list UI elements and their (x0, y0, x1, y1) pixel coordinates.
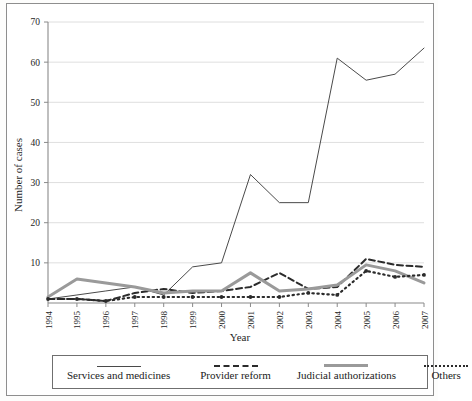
chart-canvas: 10203040506070 1994199519961997199819992… (0, 0, 438, 345)
series-lines (46, 48, 426, 303)
legend-swatch-dashed-icon (214, 365, 258, 367)
svg-text:2000: 2000 (217, 311, 227, 330)
series-marker (335, 293, 339, 297)
legend-label: Others (431, 369, 460, 382)
svg-text:10: 10 (31, 258, 41, 268)
series-marker (104, 299, 108, 303)
svg-text:1994: 1994 (44, 311, 54, 330)
legend-item-others: Others (420, 363, 472, 382)
svg-text:1997: 1997 (130, 311, 140, 330)
series-marker (191, 295, 195, 299)
series-marker (306, 291, 310, 295)
chart-legend: Services and medicines Provider reform J… (52, 355, 428, 389)
series-marker (162, 295, 166, 299)
svg-text:2004: 2004 (333, 311, 343, 330)
series-marker (220, 295, 224, 299)
legend-label: Judicial authorizations (297, 369, 396, 382)
series-marker (364, 269, 368, 273)
x-axis: 1994199519961997199819992000200120022003… (44, 303, 430, 329)
gridlines (48, 22, 424, 263)
svg-text:2001: 2001 (246, 311, 256, 329)
legend-label: Services and medicines (67, 369, 170, 382)
svg-text:1998: 1998 (159, 311, 169, 330)
svg-text:2003: 2003 (304, 311, 314, 330)
svg-text:50: 50 (31, 98, 41, 108)
legend-swatch-thin-solid-icon (97, 366, 141, 367)
line-chart: 10203040506070 1994199519961997199819992… (0, 0, 438, 345)
legend-swatch-thick-solid-icon (324, 364, 368, 367)
svg-text:1999: 1999 (188, 311, 198, 330)
x-axis-title: Year (230, 331, 251, 343)
svg-text:1996: 1996 (101, 311, 111, 330)
legend-label: Provider reform (200, 369, 271, 382)
svg-text:60: 60 (31, 58, 41, 68)
svg-text:2007: 2007 (420, 311, 430, 330)
svg-text:20: 20 (31, 218, 41, 228)
series-marker (393, 275, 397, 279)
legend-swatch-dotted-icon (424, 365, 468, 367)
svg-text:40: 40 (31, 138, 41, 148)
svg-text:70: 70 (31, 17, 41, 27)
y-axis-title: Number of cases (12, 138, 24, 212)
svg-text:2005: 2005 (362, 311, 372, 330)
y-axis: 10203040506070 (31, 17, 49, 303)
series-marker (75, 297, 79, 301)
svg-text:2002: 2002 (275, 311, 285, 329)
svg-text:1995: 1995 (72, 311, 82, 330)
series-line (48, 271, 424, 301)
series-marker (277, 295, 281, 299)
series-marker (249, 295, 253, 299)
svg-text:30: 30 (31, 178, 41, 188)
svg-text:2006: 2006 (391, 311, 401, 330)
series-marker (422, 273, 426, 277)
series-marker (46, 297, 50, 301)
legend-item-judicial-authorizations: Judicial authorizations (293, 362, 400, 382)
legend-item-provider-reform: Provider reform (196, 363, 275, 382)
series-marker (133, 295, 137, 299)
legend-item-services-and-medicines: Services and medicines (63, 363, 174, 382)
series-line (48, 48, 424, 299)
